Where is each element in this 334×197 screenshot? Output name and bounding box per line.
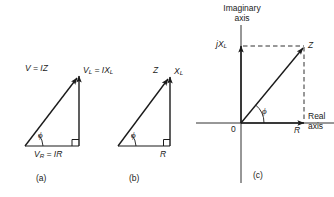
- diagram-a-horizontal-label: VR = IR: [34, 150, 62, 160]
- diagram-c-impedance-vector: [241, 48, 303, 123]
- diagram-a-hypotenuse-line: [25, 78, 77, 146]
- diagram-a-voltage-triangle: [25, 76, 79, 146]
- diagram-c-real-component-label: R: [294, 126, 300, 136]
- diagram-c-origin-label: 0: [231, 125, 236, 135]
- diagram-c-imaginary-axis-label: Imaginary axis: [216, 3, 268, 23]
- diagram-a-vertical-label: VL = IXL: [83, 66, 113, 76]
- diagram-c-angle-label: ϕ: [262, 106, 267, 116]
- imaginary-axis-label-line2: axis: [216, 13, 268, 23]
- diagram-a-hypotenuse-label: V = IZ: [25, 64, 48, 74]
- diagram-c-caption: (c): [253, 170, 263, 180]
- diagram-a-caption: (a): [36, 173, 46, 183]
- diagram-c-impedance-vector-label: Z: [308, 41, 313, 51]
- diagram-b-caption: (b): [129, 173, 139, 183]
- diagram-b-hypotenuse-line: [118, 79, 168, 146]
- diagram-b-vertical-label: XL: [174, 67, 183, 77]
- real-axis-label-line2: axis: [308, 121, 334, 131]
- diagram-b-angle-label: ϕ: [131, 130, 136, 140]
- diagram-a-right-angle-marker: [72, 140, 79, 147]
- diagram-b-impedance-triangle: [118, 77, 170, 146]
- real-axis-label-line1: Real: [308, 111, 334, 121]
- diagram-a-angle-label: ϕ: [38, 130, 43, 140]
- diagram-b-right-angle-marker: [164, 140, 171, 147]
- diagram-c-real-axis-label: Real axis: [308, 111, 334, 131]
- figure-svg: [0, 0, 334, 197]
- diagram-c-imaginary-component-label: jXL: [216, 40, 227, 50]
- imaginary-axis-label-line1: Imaginary: [216, 3, 268, 13]
- diagram-b-hypotenuse-label: Z: [153, 66, 158, 76]
- figure-container: V = IZ VL = IXL VR = IR ϕ (a) Z XL R ϕ (…: [0, 0, 334, 197]
- diagram-b-horizontal-label: R: [160, 150, 166, 160]
